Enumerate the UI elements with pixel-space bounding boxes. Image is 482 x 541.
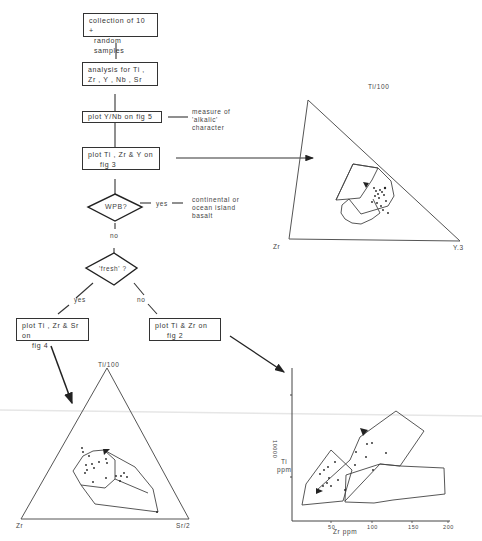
decision-fresh-no-label: no bbox=[137, 296, 145, 304]
step-plot-ti-zr-line2: fig 2 bbox=[155, 331, 215, 341]
step-plot-ti-zr-y: plot Ti , Zr & Y on fig 3 bbox=[82, 147, 160, 170]
step-collect-samples-line1: collection of 10 + bbox=[89, 16, 152, 36]
fig2-xtick-200: 200 bbox=[443, 523, 454, 531]
step-plot-ti-zr-sr-line1: plot Ti , Zr & Sr on bbox=[22, 321, 83, 341]
decision-wpb-no-label: no bbox=[110, 232, 118, 240]
fig4-ternary-plot bbox=[21, 368, 189, 519]
fig2-binary-plot bbox=[290, 368, 450, 523]
alkalic-note: measure of 'alkalic' character bbox=[192, 108, 231, 132]
step-plot-ti-zr: plot Ti & Zr on fig 2 bbox=[149, 318, 221, 341]
arrow-to-fig4 bbox=[51, 346, 72, 403]
fig4-apex-right-label: Sr/2 bbox=[176, 522, 190, 530]
alkalic-note-line3: character bbox=[192, 124, 231, 132]
decision-wpb-label: WPB? bbox=[105, 203, 127, 211]
alkalic-note-line1: measure of bbox=[192, 108, 231, 116]
step-plot-ti-zr-sr: plot Ti , Zr & Sr on fig 4 bbox=[16, 318, 89, 341]
step-collect-samples-line2: random samples bbox=[89, 36, 152, 56]
fig2-ylabel-line2: ppm bbox=[277, 466, 291, 474]
step-collect-samples: collection of 10 + random samples bbox=[83, 13, 158, 37]
step-plot-y-nb: plot Y/Nb on fig 5 bbox=[82, 111, 162, 123]
alkalic-note-line2: 'alkalic' bbox=[192, 116, 231, 124]
decision-fresh-yes-label: yes bbox=[74, 296, 86, 304]
decision-wpb-yes-label: yes bbox=[156, 200, 168, 208]
fig3-apex-right-label: Y.3 bbox=[453, 244, 464, 252]
fig2-ylabel: Ti ppm bbox=[277, 458, 291, 474]
wpb-outcome-line2: ocean island bbox=[192, 204, 239, 212]
step-analysis-line2: Zr , Y , Nb , Sr bbox=[88, 75, 152, 85]
step-plot-ti-zr-sr-line2: fig 4 bbox=[22, 341, 83, 351]
step-plot-ti-zr-line1: plot Ti & Zr on bbox=[155, 321, 215, 331]
fig3-ternary-plot bbox=[289, 100, 460, 241]
decision-fresh-label: 'fresh' ? bbox=[99, 265, 127, 273]
fig3-apex-left-label: Zr bbox=[273, 243, 280, 251]
step-analysis-line1: analysis for Ti , bbox=[88, 65, 152, 75]
fig4-apex-top-label: Ti/100 bbox=[98, 361, 119, 369]
fig2-ylabel-line1: Ti bbox=[277, 458, 291, 466]
arrow-to-fig2 bbox=[230, 336, 284, 372]
fig2-ytick-10000: 10000 bbox=[271, 440, 279, 458]
fig2-xtick-150: 150 bbox=[408, 523, 419, 531]
wpb-outcome-line1: continental or bbox=[192, 196, 239, 204]
scan-artifact-line bbox=[0, 410, 482, 416]
step-analysis: analysis for Ti , Zr , Y , Nb , Sr bbox=[82, 62, 158, 86]
fig3-apex-top-label: Ti/100 bbox=[368, 83, 389, 91]
fig4-apex-left-label: Zr bbox=[16, 522, 23, 530]
wpb-outcome-line3: basalt bbox=[192, 212, 239, 220]
wpb-outcome-note: continental or ocean island basalt bbox=[192, 196, 239, 220]
step-plot-ti-zr-y-line1: plot Ti , Zr & Y on bbox=[88, 150, 154, 160]
step-plot-ti-zr-y-line2: fig 3 bbox=[88, 160, 154, 170]
step-plot-y-nb-label: plot Y/Nb on fig 5 bbox=[88, 113, 152, 120]
fig2-xlabel: Zr ppm bbox=[333, 528, 357, 536]
diagram-canvas bbox=[0, 0, 482, 541]
fig2-xtick-100: 100 bbox=[367, 523, 378, 531]
